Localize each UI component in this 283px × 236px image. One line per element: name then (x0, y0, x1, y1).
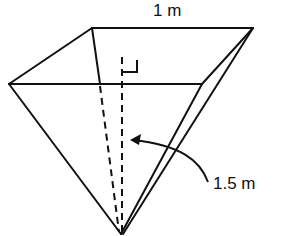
pyramid-diagram: 1 m 1.5 m (0, 0, 283, 236)
pyramid-drawing (0, 0, 283, 236)
arrowhead-icon (130, 134, 141, 145)
lateral-edge-back-right (123, 28, 253, 234)
right-angle-marker (123, 60, 137, 72)
height-label: 1.5 m (213, 174, 256, 194)
right-edge (202, 28, 253, 84)
height-pointer-arrow (133, 140, 208, 182)
lateral-edge-back-left (92, 28, 100, 84)
left-edge (9, 28, 92, 84)
top-edge-label: 1 m (153, 1, 181, 21)
lateral-edge-front-left (9, 84, 121, 234)
